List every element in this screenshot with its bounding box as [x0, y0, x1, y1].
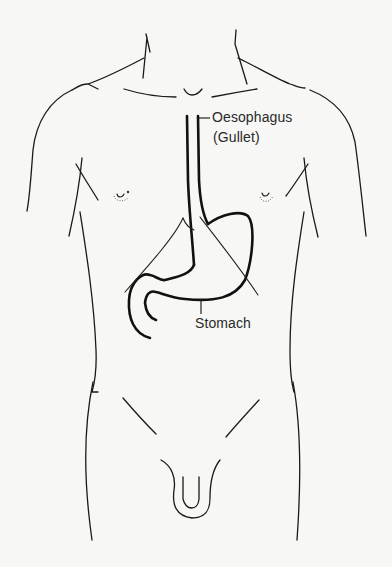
gullet-label: (Gullet): [213, 129, 260, 145]
right-arm-inner: [304, 158, 318, 237]
torso-right-side: [290, 212, 304, 392]
right-nipple: [260, 193, 273, 201]
left-shoulder-line: [72, 58, 144, 90]
stomach-outline: [145, 213, 252, 320]
stomach-label: Stomach: [195, 315, 251, 331]
right-arm-outer: [310, 90, 366, 236]
left-hip-line: [86, 382, 93, 540]
liver-edge-right: [200, 217, 258, 295]
neck-right-line: [235, 30, 247, 84]
right-pectoral-line: [286, 164, 308, 196]
torso-left-side: [80, 212, 98, 392]
right-hip-line: [293, 382, 300, 540]
torso-diagram: [0, 0, 392, 567]
left-nipple: [114, 191, 129, 201]
suprasternal-notch: [184, 89, 202, 95]
genital-inner: [183, 477, 199, 508]
oesophagus-left-wall: [187, 116, 194, 265]
left-clavicle: [124, 89, 176, 97]
oesophagus-right-wall: [198, 116, 208, 224]
neck-left-line: [143, 34, 150, 78]
right-shoulder-line: [238, 58, 305, 88]
liver-edge-left: [125, 218, 183, 292]
left-arm-outer: [27, 90, 72, 211]
left-groin-line: [123, 398, 156, 434]
right-groin-line: [226, 400, 259, 437]
right-clavicle: [212, 89, 257, 97]
oesophagus-label: Oesophagus: [212, 109, 292, 125]
genital-outline: [161, 460, 220, 518]
